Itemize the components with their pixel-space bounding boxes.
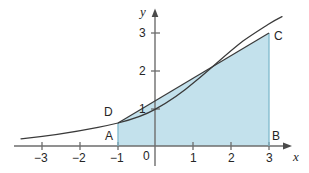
x-axis-arrow [283,143,292,150]
x-axis-label: x [293,150,299,163]
x-tick-label-neg1: −1 [110,152,124,164]
y-tick-label-2: 2 [139,65,146,77]
x-tick-label-neg2: −2 [72,152,86,164]
x-tick-label-neg3: −3 [34,152,48,164]
x-tick-label-1: 1 [190,152,197,164]
y-axis-label: y [140,5,146,18]
graph-figure: −3 −2 −1 1 2 3 0 1 2 3 y x A B C D [0,0,309,173]
point-label-c: C [274,30,283,42]
x-tick-label-3: 3 [266,152,273,164]
y-tick-label-3: 3 [139,27,146,39]
point-label-b: B [272,130,280,142]
origin-label: 0 [143,150,150,162]
y-tick-label-1: 1 [139,103,146,115]
y-axis-arrow [152,9,159,18]
plot-canvas [0,0,309,173]
shaded-region-abcd [118,33,269,146]
point-label-a: A [105,130,113,142]
point-label-d: D [104,106,113,118]
x-tick-label-2: 2 [228,152,235,164]
